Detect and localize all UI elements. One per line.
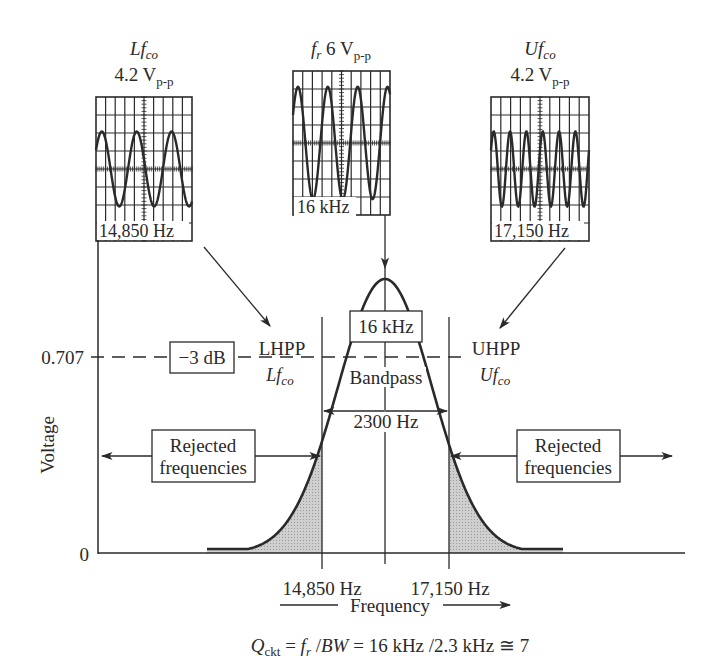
scope-right (491, 97, 589, 241)
db-label: −3 dB (178, 347, 225, 368)
bandpass-diagram: Lfco 4.2 Vp-p fr 6 Vp-p Ufco 4.2 Vp-p 14… (0, 0, 707, 671)
arrow-right-scope-to-uhpp (500, 248, 565, 328)
center-frequency-label: 16 kHz (358, 316, 413, 337)
scope-right-amplitude: 4.2 Vp-p (510, 64, 569, 89)
scope-center (293, 71, 390, 215)
scope-right-title: Ufco (524, 38, 556, 62)
uhpp-sublabel: Ufco (480, 365, 511, 388)
rejected-left-line1: Rejected (170, 435, 237, 456)
scope-center-title: fr 6 Vp-p (311, 38, 371, 63)
rejected-right-line1: Rejected (535, 435, 602, 456)
y-axis-label: Voltage (37, 416, 58, 474)
lhpp-sublabel: Lfco (265, 365, 294, 388)
bandwidth-label: 2300 Hz (354, 411, 419, 432)
q-formula: Qckt = fr /BW = 16 kHz /2.3 kHz ≅ 7 (251, 635, 529, 659)
scope-right-freq: 17,150 Hz (494, 221, 569, 241)
y-tick-0707: 0.707 (41, 347, 84, 368)
rejected-left-line2: frequencies (159, 457, 247, 478)
rejected-right-line2: frequencies (524, 457, 612, 478)
scope-center-freq: 16 kHz (297, 197, 350, 217)
lhpp-label: LHPP (259, 338, 305, 359)
arrow-left-scope-to-lhpp (204, 247, 270, 326)
uhpp-label: UHPP (472, 338, 521, 359)
x-axis-label: Frequency (350, 595, 431, 616)
scope-left-freq: 14,850 Hz (99, 221, 174, 241)
scope-left (96, 97, 192, 241)
y-tick-0: 0 (80, 544, 90, 565)
scope-left-title: Lfco (129, 38, 159, 62)
bandpass-label: Bandpass (350, 367, 423, 388)
scope-left-amplitude: 4.2 Vp-p (114, 64, 173, 89)
